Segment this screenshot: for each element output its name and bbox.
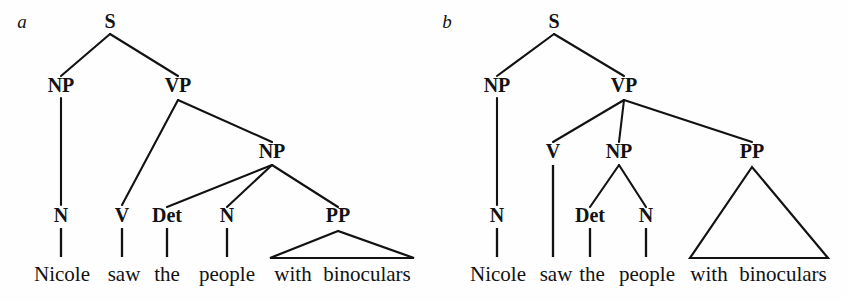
panel-b-node-np-subj: NP <box>484 74 511 96</box>
panel-a-node-n-subj: N <box>54 204 69 226</box>
panel-a-node-pp: PP <box>326 204 350 226</box>
panel-b-branch-vp-to-v <box>553 100 624 142</box>
panel-b-node-np-obj: NP <box>606 140 633 162</box>
panel-b-word-saw: saw <box>540 262 573 286</box>
panel-a-node-vp: VP <box>165 74 192 96</box>
panel-a-word-people: people <box>199 262 255 286</box>
panel-b-word-with: with <box>690 262 728 286</box>
panel-a-node-det: Det <box>152 204 182 226</box>
panel-a-pp-triangle <box>270 231 414 258</box>
panel-a-word-saw: saw <box>108 262 141 286</box>
panel-a-node-n-obj: N <box>220 204 235 226</box>
panel-b-branch-np-to-det <box>590 165 619 207</box>
panel-b-pp-triangle <box>690 167 828 258</box>
panel-b-branch-np-to-nobj <box>619 165 646 207</box>
tree-panel-a: aSNPVPNPNVDetNPPNicolesawthepeoplewithbi… <box>17 10 414 286</box>
panel-b-word-people: people <box>619 262 675 286</box>
panel-b-branch-vp-to-np <box>619 100 624 142</box>
panel-b-branch-s-to-np <box>497 34 554 76</box>
panel-a-node-np-subj: NP <box>48 74 75 96</box>
panel-a-word-with: with <box>274 262 312 286</box>
panel-a-branch-vp-to-np <box>178 100 272 142</box>
panel-b-branch-vp-to-pp <box>624 100 752 142</box>
panel-a-word-binoculars: binoculars <box>323 262 410 286</box>
tree-panel-b: bSNPVPVNPPPNDetNNicolesawthepeoplewithbi… <box>442 10 828 286</box>
panel-b-node-s: S <box>548 10 559 32</box>
panel-b-node-n-subj: N <box>490 204 505 226</box>
panel-b-word-nicole: Nicole <box>470 262 526 286</box>
panel-a-letter-label: a <box>17 11 27 32</box>
panel-b-letter-label: b <box>442 11 452 32</box>
panel-a-branch-s-to-np <box>61 34 110 76</box>
syntax-tree-figure: aSNPVPNPNVDetNPPNicolesawthepeoplewithbi… <box>0 0 847 302</box>
panel-b-word-the: the <box>579 262 605 286</box>
panel-a-node-np-obj: NP <box>259 140 286 162</box>
panel-a-branch-np-to-pp <box>272 165 338 207</box>
panel-b-node-det: Det <box>575 204 605 226</box>
panel-b-node-n-obj: N <box>639 204 654 226</box>
panel-b-word-binoculars: binoculars <box>739 262 826 286</box>
panel-a-branch-np-to-det <box>167 165 272 207</box>
panel-a-node-v: V <box>115 204 130 226</box>
panel-b-branch-s-to-vp <box>554 34 624 76</box>
panel-a-branch-vp-to-v <box>122 100 178 205</box>
panel-a-word-the: the <box>154 262 180 286</box>
panel-a-word-nicole: Nicole <box>34 262 90 286</box>
panel-a-node-s: S <box>104 10 115 32</box>
tree-diagram-canvas: aSNPVPNPNVDetNPPNicolesawthepeoplewithbi… <box>0 0 847 302</box>
panel-a-branch-np-to-nobj <box>227 165 272 207</box>
panel-b-node-vp: VP <box>611 74 638 96</box>
panel-b-node-pp: PP <box>740 140 764 162</box>
panel-b-node-v: V <box>546 140 561 162</box>
panel-a-branch-s-to-vp <box>110 34 178 76</box>
